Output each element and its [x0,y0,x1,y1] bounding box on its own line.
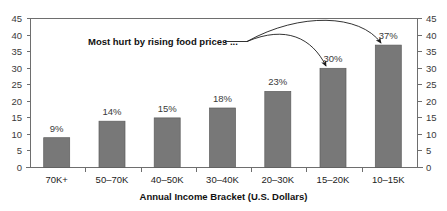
y-axis-right-ticks [418,19,422,168]
x-label-70k-plus: 70K+ [45,174,68,185]
x-label-15-20k: 15–20K [317,174,350,185]
bar-label-40-50k: 15% [158,103,178,114]
y-tick-label-right-40: 40 [426,30,437,41]
y-tick-label-right-15: 15 [426,112,437,123]
bar-series [44,45,402,167]
y-tick-label-left-5: 5 [17,145,22,156]
x-label-30-40k: 30–40K [206,174,239,185]
x-label-40-50k: 40–50K [151,174,184,185]
y-tick-label-left-30: 30 [11,63,22,74]
bar-15-20k [320,68,346,167]
bar-label-30-40k: 18% [213,93,233,104]
x-label-50-70k: 50–70K [96,174,129,185]
bar-30-40k [210,108,236,168]
x-label-20-30k: 20–30K [261,174,294,185]
y-tick-label-left-40: 40 [11,30,22,41]
y-tick-label-right-30: 30 [426,63,437,74]
y-tick-label-right-5: 5 [426,145,431,156]
annotation-label: Most hurt by rising food prices ... [88,36,238,47]
y-axis-left: 0 5 10 15 20 25 30 35 40 45 [11,13,30,173]
x-axis-ticks [86,168,362,172]
bar-20-30k [265,91,291,167]
x-label-10-15k: 10–15K [372,174,405,185]
bar-label-10-15k: 37% [379,30,399,41]
bar-50-70k [99,121,125,167]
bar-label-15-20k: 30% [323,53,343,64]
y-tick-label-right-10: 10 [426,129,437,140]
annotation-arrow-to-15-20k [247,34,326,66]
bar-40-50k [154,118,180,168]
bar-chart-figure: 0 5 10 15 20 25 30 35 40 45 [0,0,447,211]
y-tick-label-left-0: 0 [17,162,22,173]
y-axis-right: 0 5 10 15 20 25 30 35 40 45 [418,13,437,173]
y-tick-label-right-25: 25 [426,79,437,90]
y-tick-label-left-10: 10 [11,129,22,140]
y-axis-left-ticks [27,19,31,168]
y-tick-label-right-35: 35 [426,46,437,57]
bar-label-50-70k: 14% [102,106,122,117]
annotation-arrow-to-10-15k [247,20,381,43]
y-tick-label-right-45: 45 [426,13,437,24]
y-tick-label-left-25: 25 [11,79,22,90]
y-tick-label-left-35: 35 [11,46,22,57]
y-tick-label-right-0: 0 [426,162,431,173]
y-tick-label-right-20: 20 [426,96,437,107]
bar-label-70k-plus: 9% [50,123,64,134]
bar-70k-plus [44,138,70,168]
bar-label-20-30k: 23% [268,76,288,87]
x-axis-title: Annual Income Bracket (U.S. Dollars) [140,191,308,202]
y-tick-label-left-15: 15 [11,112,22,123]
y-tick-label-left-20: 20 [11,96,22,107]
x-axis-category-labels: 70K+ 50–70K 40–50K 30–40K 20–30K 15–20K … [45,174,405,185]
bar-10-15k [375,45,401,167]
chart-canvas: 0 5 10 15 20 25 30 35 40 45 [0,0,447,211]
y-tick-label-left-45: 45 [11,13,22,24]
